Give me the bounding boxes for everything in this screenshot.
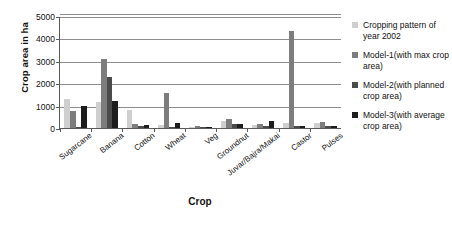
y-tick-label: 0 — [50, 124, 55, 134]
legend-swatch — [352, 52, 358, 58]
bar — [144, 125, 150, 128]
y-axis-title: Crop area in ha — [19, 0, 30, 119]
bar — [112, 101, 118, 128]
bar — [237, 124, 243, 128]
legend-label: Model-3(with average crop area) — [363, 110, 452, 131]
bar-group — [185, 17, 216, 128]
x-tick-label: Wheat — [164, 131, 188, 152]
legend-swatch — [352, 82, 358, 88]
x-tick-label: Pulses — [320, 131, 344, 153]
x-tick-label: Sugarcane — [58, 131, 94, 162]
legend-swatch — [352, 22, 358, 28]
bar-group — [247, 17, 278, 128]
plot-area: 010002000300040005000 — [59, 17, 341, 129]
x-tick-label: Banana — [98, 131, 125, 155]
legend-label: Model-2(with planned crop area) — [363, 80, 452, 101]
x-tick-label: Castor — [289, 131, 313, 153]
y-tick-label: 5000 — [36, 12, 55, 22]
y-tick-label: 1000 — [36, 102, 55, 112]
chart-figure: Crop area in ha 010002000300040005000 Su… — [0, 0, 452, 230]
legend-label: Cropping pattern of year 2002 — [363, 20, 452, 41]
y-tick-label: 2000 — [36, 79, 55, 89]
x-tick-label: Veg — [203, 131, 219, 147]
legend-item[interactable]: Model-3(with average crop area) — [352, 110, 452, 131]
bar-group — [91, 17, 122, 128]
y-tick-label: 3000 — [36, 57, 55, 67]
bar-group — [310, 17, 341, 128]
bar-group — [60, 17, 91, 128]
bar-group — [122, 17, 153, 128]
bar — [81, 106, 87, 128]
bar — [206, 127, 212, 128]
chart-legend: Cropping pattern of year 2002Model-1(wit… — [352, 20, 452, 140]
bar — [164, 93, 170, 128]
bar — [289, 31, 295, 128]
bar-group — [279, 17, 310, 128]
bar-group — [154, 17, 185, 128]
y-tick-label: 4000 — [36, 34, 55, 44]
bar-group — [216, 17, 247, 128]
bar — [331, 126, 337, 128]
x-axis-tick-labels: SugarcaneBananaCottonWheatVegGroundnutJu… — [59, 131, 341, 189]
bar — [175, 123, 181, 128]
legend-label: Model-1(with max crop area) — [363, 50, 452, 71]
bar-series-container — [60, 17, 341, 128]
legend-swatch — [352, 112, 358, 118]
bar — [70, 111, 76, 128]
legend-item[interactable]: Cropping pattern of year 2002 — [352, 20, 452, 41]
legend-item[interactable]: Model-1(with max crop area) — [352, 50, 452, 71]
x-axis-title: Crop — [59, 196, 341, 207]
bar — [269, 121, 275, 128]
legend-item[interactable]: Model-2(with planned crop area) — [352, 80, 452, 101]
bar — [300, 126, 306, 128]
x-tick-label: Cotton — [132, 131, 156, 153]
